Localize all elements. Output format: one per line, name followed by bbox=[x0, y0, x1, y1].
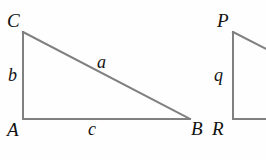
segment-a-hypotenuse-CB bbox=[23, 32, 190, 119]
vertex-label-a: A bbox=[7, 120, 19, 139]
vertex-label-p: P bbox=[217, 11, 229, 30]
vertex-label-r: R bbox=[212, 119, 224, 138]
geometry-figure: C A B b a c P R q bbox=[0, 0, 266, 160]
side-label-q: q bbox=[214, 66, 223, 84]
side-label-a: a bbox=[97, 53, 106, 71]
side-label-c: c bbox=[88, 120, 96, 138]
triangle-pqr-shape bbox=[233, 32, 266, 119]
vertex-label-c: C bbox=[7, 11, 20, 30]
vertex-label-b: B bbox=[191, 119, 203, 138]
side-label-b: b bbox=[8, 66, 17, 84]
triangle-abc-shape bbox=[23, 32, 190, 119]
segment-hypotenuse-PQ bbox=[233, 32, 266, 50]
